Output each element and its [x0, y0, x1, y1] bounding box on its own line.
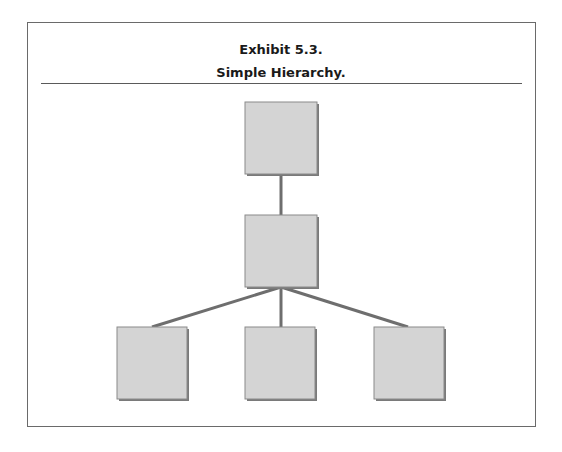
- hierarchy-diagram: [0, 0, 562, 452]
- connector-middle-bottom-right: [281, 287, 408, 327]
- connector-middle-bottom-left: [152, 287, 281, 327]
- node-bottom-right: [374, 327, 446, 401]
- node-middle: [245, 215, 319, 289]
- node-top: [245, 102, 319, 176]
- node-bottom-left: [117, 327, 189, 401]
- node-bottom-center: [245, 327, 317, 401]
